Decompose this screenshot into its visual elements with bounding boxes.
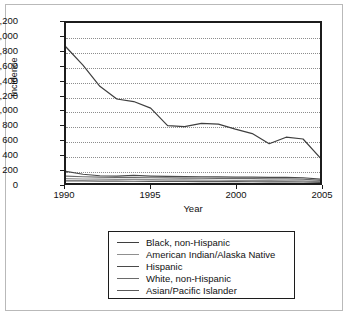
y-tick-label: 2,000: [0, 31, 18, 40]
y-tick-label: 1,000: [0, 105, 18, 114]
x-tick-label: 1990: [39, 189, 89, 200]
series-line: [66, 47, 320, 158]
legend-label: Black, non-Hispanic: [146, 237, 230, 248]
legend-line-swatch: [117, 290, 139, 291]
chart-region: Incidence 02004006008001,0001,2001,4001,…: [0, 0, 348, 222]
y-tick-label: 1,600: [0, 61, 18, 70]
y-tick-label: 600: [0, 135, 18, 144]
legend-line-swatch: [117, 254, 139, 255]
y-tick-label: 1,800: [0, 46, 18, 55]
legend-label: Hispanic: [146, 261, 182, 272]
y-tick-label: 400: [0, 150, 18, 159]
legend-item[interactable]: White, non-Hispanic: [115, 272, 294, 284]
y-tick-label: 800: [0, 120, 18, 129]
legend-label: American Indian/Alaska Native: [146, 249, 275, 260]
legend-line-swatch: [117, 278, 139, 279]
legend-item[interactable]: Asian/Pacific Islander: [115, 284, 294, 296]
y-tick-label: 2,200: [0, 16, 18, 25]
chart-figure: Incidence 02004006008001,0001,2001,4001,…: [0, 0, 348, 316]
y-tick-label: 200: [0, 165, 18, 174]
legend-line-swatch: [117, 266, 139, 267]
x-tick-label: 2000: [211, 189, 261, 200]
y-tick-label: 0: [0, 180, 18, 189]
legend-label: White, non-Hispanic: [146, 273, 231, 284]
x-tick-label: 2005: [297, 189, 347, 200]
plot-area: [64, 21, 322, 185]
y-tick-label: 1,200: [0, 91, 18, 100]
legend-line-swatch: [117, 242, 139, 243]
y-tick-label: 1,400: [0, 76, 18, 85]
chart-legend: Black, non-HispanicAmerican Indian/Alask…: [108, 231, 295, 299]
legend-item[interactable]: American Indian/Alaska Native: [115, 248, 294, 260]
legend-item[interactable]: Black, non-Hispanic: [115, 236, 294, 248]
legend-label: Asian/Pacific Islander: [146, 285, 237, 296]
x-axis-title: Year: [64, 203, 322, 214]
x-tick-label: 1995: [125, 189, 175, 200]
series-lines: [66, 23, 320, 183]
legend-item[interactable]: Hispanic: [115, 260, 294, 272]
